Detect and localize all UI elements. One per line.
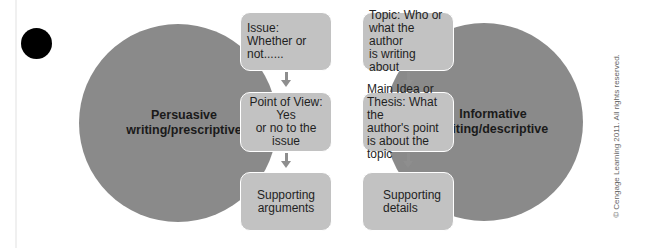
supporting-arguments-box: Supporting arguments — [240, 172, 332, 231]
informative-writing-label: Informative writing/descriptive — [438, 107, 548, 137]
page-edge-line — [15, 0, 17, 248]
point-of-view-box: Point of View: Yes or no to the issue — [240, 92, 332, 152]
main-idea-box: Main Idea or Thesis: What the author's p… — [362, 92, 454, 152]
supporting-details-box: Supporting details — [362, 172, 454, 231]
topic-box: Topic: Who or what the author is writing… — [362, 12, 454, 71]
copyright-notice: © Cengage Learning 2011. All rights rese… — [612, 26, 621, 246]
bullet-dot — [21, 28, 52, 59]
persuasive-writing-label: Persuasive writing/prescriptive — [126, 108, 241, 138]
issue-box: Issue: Whether or not...... — [240, 12, 332, 71]
